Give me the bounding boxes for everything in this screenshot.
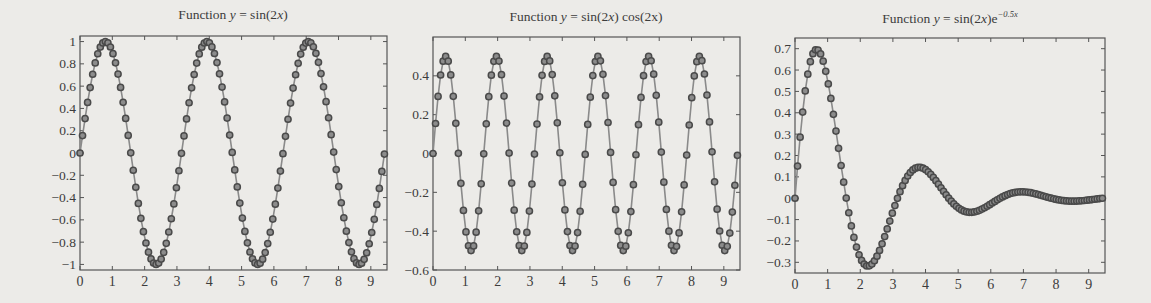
- data-marker: [534, 121, 540, 127]
- data-marker: [163, 240, 169, 246]
- data-marker: [435, 93, 441, 99]
- x-tick-label: 1: [109, 274, 116, 289]
- data-marker: [369, 229, 375, 235]
- data-marker: [686, 122, 692, 128]
- data-marker: [529, 181, 535, 187]
- data-marker: [133, 184, 139, 190]
- data-marker: [630, 182, 636, 188]
- y-tick-label: 0.4: [412, 68, 429, 83]
- data-marker: [189, 85, 195, 91]
- y-tick-label: 0.2: [412, 107, 429, 122]
- data-marker: [557, 150, 563, 156]
- chart-sin: 0123456789−1−0.8−0.6−0.4−0.200.20.40.60.…: [52, 34, 388, 289]
- data-marker: [506, 150, 512, 156]
- x-tick-label: 7: [303, 274, 310, 289]
- data-marker: [526, 208, 532, 214]
- data-marker: [884, 226, 890, 232]
- data-marker: [794, 163, 800, 169]
- data-marker: [711, 179, 717, 185]
- data-marker: [894, 195, 900, 201]
- data-marker: [476, 208, 482, 214]
- data-marker: [331, 149, 337, 155]
- data-marker: [194, 60, 200, 66]
- data-marker: [623, 243, 629, 249]
- y-tick-label: 0.4: [59, 101, 76, 116]
- data-marker: [270, 216, 276, 222]
- data-marker: [681, 182, 687, 188]
- data-marker: [285, 116, 291, 122]
- data-marker: [277, 168, 283, 174]
- data-marker: [524, 229, 530, 235]
- data-marker: [651, 71, 657, 77]
- data-marker: [585, 121, 591, 127]
- data-marker: [326, 115, 332, 121]
- title-prefix: Function: [178, 7, 229, 22]
- y-tick-label: 0.5: [774, 84, 791, 99]
- data-marker: [328, 132, 334, 138]
- data-marker: [227, 132, 233, 138]
- data-marker: [572, 243, 578, 249]
- x-tick-label: 5: [238, 274, 245, 289]
- x-tick-label: 3: [889, 277, 896, 292]
- series-line: [795, 50, 1102, 266]
- data-marker: [85, 99, 91, 105]
- data-marker: [648, 58, 654, 64]
- data-marker: [293, 72, 299, 78]
- chart-sin-cos: 0123456789−0.6−0.4−0.200.20.4: [405, 37, 741, 289]
- data-marker: [554, 120, 560, 126]
- y-tick-label: 0.1: [774, 169, 791, 184]
- x-tick-label: 2: [494, 274, 501, 289]
- data-marker: [173, 185, 179, 191]
- title-expr: = sin(2: [567, 9, 608, 24]
- x-tick-label: 1: [462, 274, 469, 289]
- y-tick-label: 0.4: [774, 105, 791, 120]
- data-marker: [1099, 195, 1105, 201]
- data-marker: [138, 215, 144, 221]
- data-marker: [658, 149, 664, 155]
- data-marker: [481, 151, 487, 157]
- chart-damped-sin: 0123456789−0.3−0.2−0.100.10.20.30.40.50.…: [767, 38, 1106, 292]
- data-marker: [178, 150, 184, 156]
- data-marker: [802, 88, 808, 94]
- data-marker: [295, 60, 301, 66]
- data-marker: [181, 133, 187, 139]
- data-marker: [509, 180, 515, 186]
- data-marker: [600, 71, 606, 77]
- data-marker: [625, 230, 631, 236]
- data-marker: [607, 149, 613, 155]
- x-tick-label: 3: [173, 274, 180, 289]
- data-marker: [714, 206, 720, 212]
- data-marker: [130, 167, 136, 173]
- data-marker: [445, 58, 451, 64]
- title-prefix: Function: [509, 9, 560, 24]
- data-marker: [823, 68, 829, 74]
- x-tick-label: 5: [955, 277, 962, 292]
- panel-title-sin: Function y = sin(2x): [178, 7, 287, 23]
- data-marker: [876, 247, 882, 253]
- panel-title-damped-sin: Function y = sin(2x)e−0.5x: [882, 9, 1017, 27]
- data-marker: [107, 44, 113, 50]
- x-tick-label: 2: [141, 274, 148, 289]
- data-marker: [244, 240, 250, 246]
- data-marker: [272, 201, 278, 207]
- data-marker: [706, 119, 712, 125]
- data-marker: [717, 228, 723, 234]
- data-marker: [521, 243, 527, 249]
- y-tick-label: −0.2: [52, 168, 77, 183]
- data-marker: [237, 200, 243, 206]
- x-tick-label: 7: [656, 274, 663, 289]
- data-marker: [463, 229, 469, 235]
- y-tick-label: −1: [62, 257, 76, 272]
- data-marker: [92, 60, 98, 66]
- data-marker: [610, 179, 616, 185]
- data-marker: [577, 208, 583, 214]
- data-marker: [887, 218, 893, 224]
- data-marker: [430, 150, 436, 156]
- data-marker: [830, 111, 836, 117]
- title-suffix: ) cos(2x): [614, 9, 662, 24]
- data-marker: [224, 115, 230, 121]
- data-marker: [531, 151, 537, 157]
- data-marker: [470, 243, 476, 249]
- data-marker: [95, 51, 101, 57]
- data-marker: [699, 58, 705, 64]
